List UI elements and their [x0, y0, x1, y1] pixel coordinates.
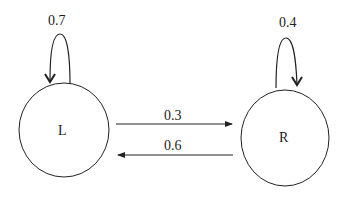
state-R-label: R — [279, 131, 288, 145]
transition-L-R-label: 0.3 — [164, 109, 182, 123]
markov-diagram: L R 0.7 0.4 0.3 0.6 — [0, 0, 349, 202]
self-loop-L-label: 0.7 — [48, 14, 66, 28]
state-L-label: L — [58, 124, 67, 138]
transition-R-L-label: 0.6 — [164, 139, 182, 153]
diagram-canvas — [0, 0, 349, 202]
self-loop-R-label: 0.4 — [279, 16, 297, 30]
